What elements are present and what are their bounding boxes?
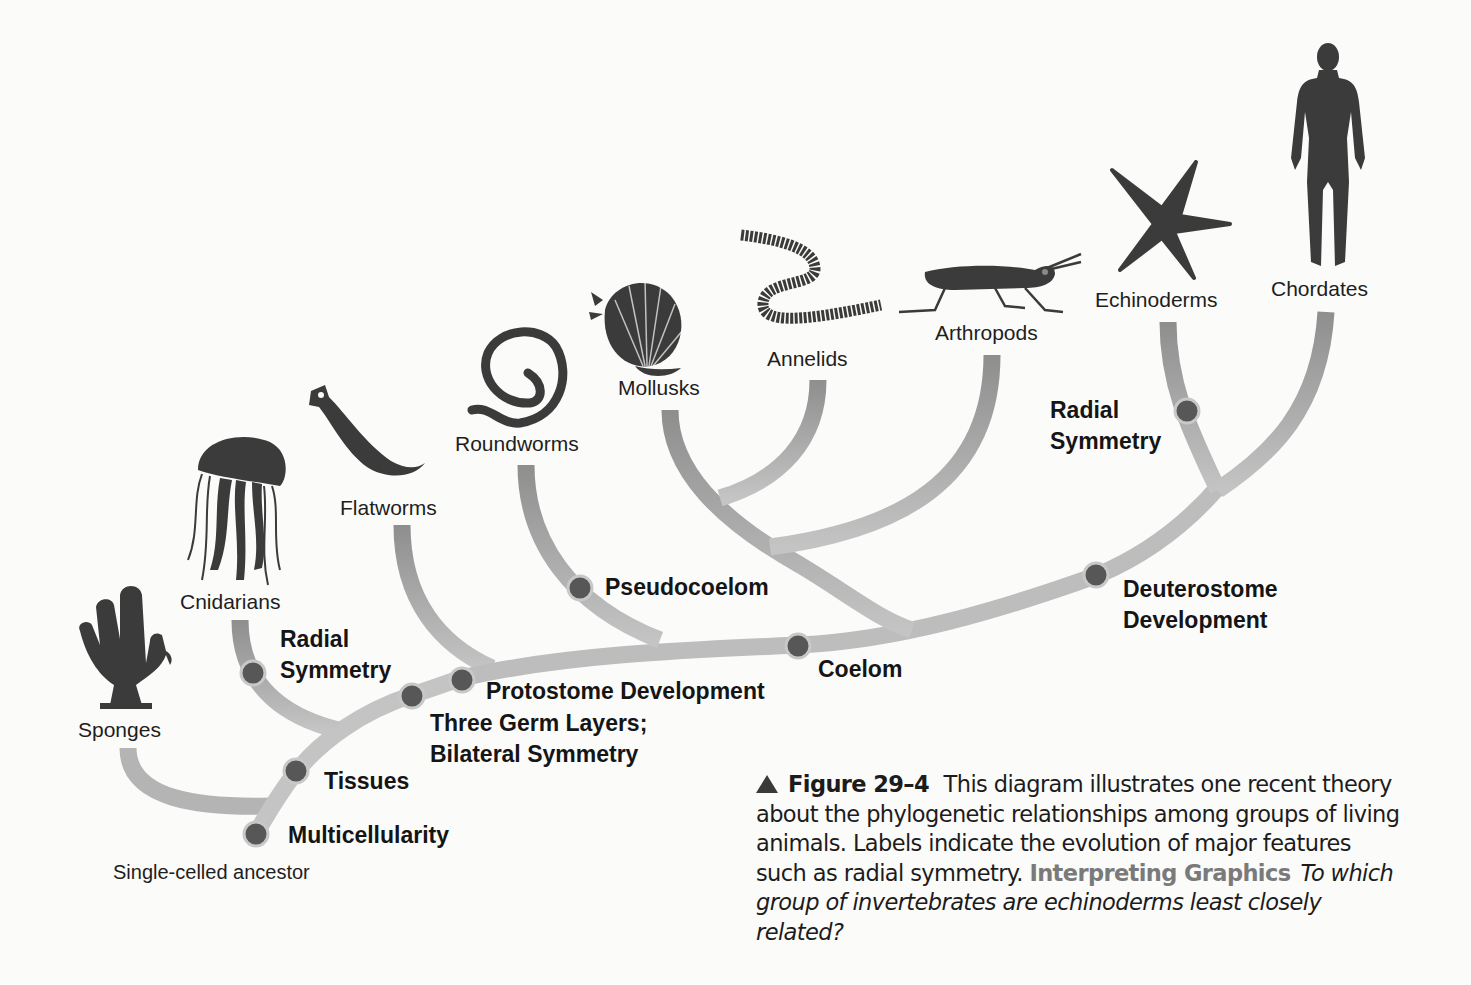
taxon-label-mollusks: Mollusks	[618, 376, 700, 400]
branch-annelids	[720, 380, 818, 498]
trait-tissues: Tissues	[324, 766, 409, 797]
node-deuterostome-development	[1084, 563, 1108, 587]
node-tissues	[284, 759, 308, 783]
trait-multicellularity: Multicellularity	[288, 820, 449, 851]
node-radial-symmetry-cnidarians	[241, 661, 265, 685]
trait-deuterostome-development: DeuterostomeDevelopment	[1123, 574, 1278, 636]
node-radial-symmetry-echinoderms	[1175, 399, 1199, 423]
segmented-worm-icon	[735, 225, 885, 335]
taxon-label-echinoderms: Echinoderms	[1095, 288, 1218, 312]
clam-icon	[585, 270, 695, 380]
sponge-icon	[70, 575, 175, 715]
trait-radial-symmetry-cnidarians: RadialSymmetry	[280, 624, 391, 686]
taxon-label-chordates: Chordates	[1271, 277, 1368, 301]
branch-chordates	[1218, 312, 1326, 490]
trait-three-germ-layers: Three Germ Layers;Bilateral Symmetry	[430, 708, 647, 770]
jellyfish-icon	[180, 430, 290, 590]
figure-number: Figure 29–4	[788, 771, 929, 797]
trait-protostome-development: Protostome Development	[486, 676, 765, 707]
taxon-label-flatworms: Flatworms	[340, 496, 437, 520]
taxon-label-arthropods: Arthropods	[935, 321, 1038, 345]
taxon-label-sponges: Sponges	[78, 718, 161, 742]
taxon-label-cnidarians: Cnidarians	[180, 590, 280, 614]
root-label: Single-celled ancestor	[113, 861, 310, 884]
human-icon	[1283, 42, 1373, 272]
triangle-marker-icon	[756, 775, 778, 793]
node-protostome-development	[450, 668, 474, 692]
node-multicellularity	[244, 822, 268, 846]
branch-roundworms	[526, 465, 660, 640]
node-three-germ-layers	[400, 684, 424, 708]
flatworm-icon	[305, 383, 430, 483]
roundworm-icon	[460, 325, 580, 430]
grasshopper-icon	[895, 250, 1085, 315]
branch-flatworms	[402, 525, 492, 668]
figure-caption: Figure 29–4 This diagram illustrates one…	[756, 770, 1406, 947]
trait-radial-symmetry-echinoderms: RadialSymmetry	[1050, 395, 1161, 457]
taxon-label-roundworms: Roundworms	[455, 432, 579, 456]
node-pseudocoelom	[568, 576, 592, 600]
starfish-icon	[1110, 160, 1235, 285]
trait-coelom: Coelom	[818, 654, 902, 685]
trait-pseudocoelom: Pseudocoelom	[605, 572, 769, 603]
interpreting-graphics-label: Interpreting Graphics	[1029, 860, 1290, 886]
node-coelom	[786, 634, 810, 658]
taxon-label-annelids: Annelids	[767, 347, 848, 371]
branch-sponges	[128, 748, 272, 806]
